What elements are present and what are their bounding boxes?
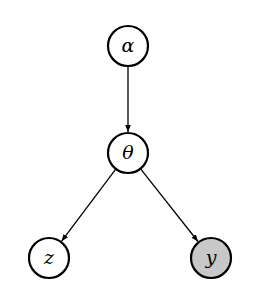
graphical-model-diagram: αθzy [0, 0, 261, 296]
node-label: α [122, 34, 135, 56]
node-alpha: α [108, 26, 148, 66]
node-label: z [43, 246, 55, 268]
edge-theta-to-y [140, 169, 198, 242]
node-label: y [205, 246, 217, 268]
node-y: y [191, 238, 231, 278]
node-z: z [29, 238, 69, 278]
node-theta: θ [108, 133, 148, 173]
edge-theta-to-z [62, 169, 116, 241]
node-label: θ [122, 141, 134, 163]
nodes: αθzy [29, 26, 231, 278]
